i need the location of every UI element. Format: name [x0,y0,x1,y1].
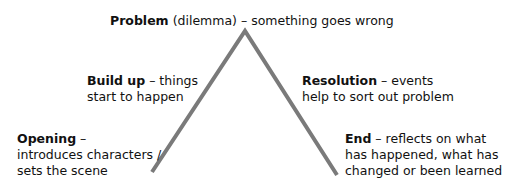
end-sep: – [371,131,385,146]
problem-label: Problem (dilemma) – something goes wrong [110,13,394,29]
build-up-label: Build up – things start to happen [87,73,198,105]
resolution-desc-1: events [391,73,433,88]
end-desc-2: has happened, what has [345,147,502,163]
end-label: End – reflects on what has happened, wha… [345,131,502,179]
resolution-sep: – [377,73,391,88]
problem-title: Problem [110,13,169,28]
problem-note: (dilemma) – [169,13,252,28]
build-up-desc-1: things [159,73,198,88]
opening-sep: – [76,131,86,146]
build-up-title: Build up [87,73,145,88]
opening-label: Opening – introduces characters / sets t… [17,131,161,179]
opening-desc-2: sets the scene [17,163,161,179]
build-up-desc-2: start to happen [87,89,198,105]
end-desc-1: reflects on what [386,131,487,146]
end-title: End [345,131,371,146]
opening-desc-1: introduces characters / [17,147,161,163]
opening-title: Opening [17,131,76,146]
end-desc-3: changed or been learned [345,163,502,179]
resolution-title: Resolution [302,73,377,88]
build-up-sep: – [145,73,159,88]
resolution-desc-2: help to sort out problem [302,89,454,105]
resolution-label: Resolution – events help to sort out pro… [302,73,454,105]
problem-desc: something goes wrong [251,13,394,28]
